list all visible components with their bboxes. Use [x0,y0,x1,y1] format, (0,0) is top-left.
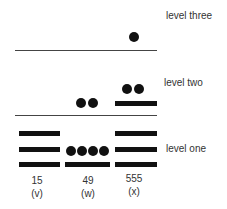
bar-x-level-one [115,131,157,136]
bar-v-level-one [19,147,60,152]
bar-w-level-one [65,162,110,167]
bar-x-level-one [115,162,157,167]
bar-v-level-one [19,131,60,136]
dot-x-level-two [122,84,132,94]
dot-x-level-three [129,32,139,42]
dot-w-level-one [77,146,87,156]
level-divider-upper [15,50,157,51]
level-three-label: level three [166,10,212,21]
label-v: (v) [22,188,52,199]
bar-v-level-one [19,162,60,167]
value-x: 555 [119,173,149,184]
label-x: (x) [119,186,149,197]
level-one-label: level one [166,143,206,154]
dot-w-level-one [66,146,76,156]
bar-x-level-one [115,147,157,152]
dot-w-level-one [99,146,109,156]
dot-w-level-two [88,98,98,108]
label-w: (w) [73,188,103,199]
value-v: 15 [22,175,52,186]
level-two-label: level two [164,77,203,88]
bar-x-level-two [115,101,157,106]
dot-w-level-two [76,98,86,108]
dot-w-level-one [88,146,98,156]
level-divider-lower [15,115,157,116]
dot-x-level-two [134,84,144,94]
value-w: 49 [73,175,103,186]
